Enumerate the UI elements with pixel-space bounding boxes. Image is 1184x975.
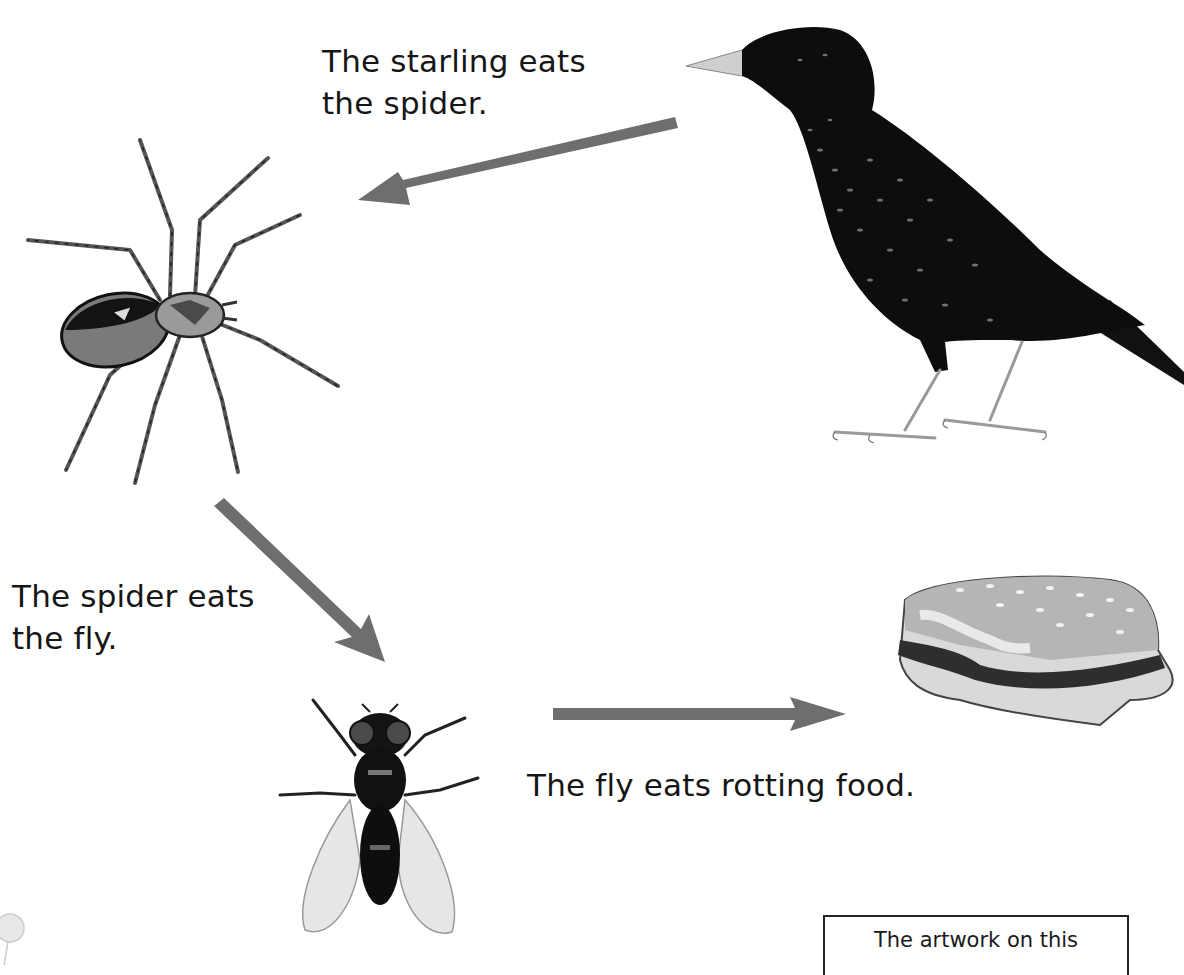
label-starling-eats-spider: The starling eats the spider.: [322, 40, 586, 124]
fly-illustration: [280, 700, 478, 933]
faint-flower-decoration: [0, 914, 24, 965]
artwork-note-text: The artwork on this: [825, 928, 1127, 952]
spider-illustration: [28, 140, 338, 483]
arrow-starling-to-spider: [358, 117, 678, 205]
label-line: the fly.: [12, 617, 255, 659]
label-line: The starling eats: [322, 40, 586, 82]
label-fly-eats-food: The fly eats rotting food.: [527, 764, 915, 806]
arrow-fly-to-food: [553, 697, 846, 731]
rotting-food-illustration: [898, 577, 1173, 725]
label-spider-eats-fly: The spider eats the fly.: [12, 575, 255, 659]
artwork-note-box: The artwork on this: [823, 915, 1129, 975]
label-line: The spider eats: [12, 575, 255, 617]
label-line: the spider.: [322, 82, 586, 124]
starling-illustration: [686, 27, 1184, 443]
label-line: The fly eats rotting food.: [527, 767, 915, 803]
